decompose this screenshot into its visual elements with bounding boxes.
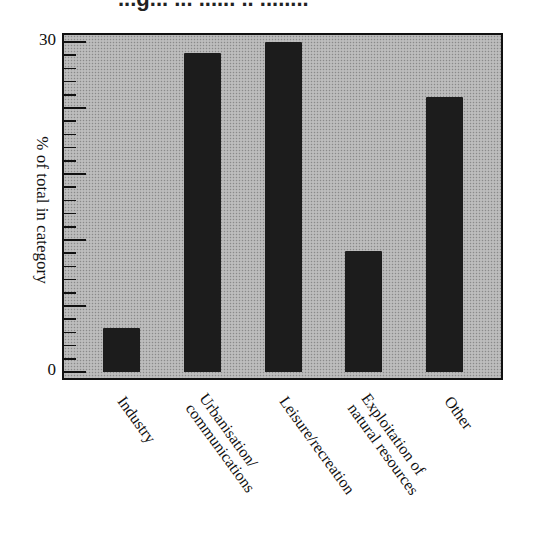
y-minor-tick [64,358,76,360]
y-major-tick [64,305,86,307]
y-tick-label-0: 0 [26,360,56,380]
y-minor-tick [64,318,76,320]
bar-other [426,97,463,372]
chart-title-cropped: ...g... ... ...... .. ........ [118,0,309,12]
x-label-line: Other [441,393,476,432]
y-tick-label-30: 30 [26,30,56,50]
y-major-tick [64,41,86,43]
y-minor-tick [64,147,76,149]
x-label-other: Other [441,393,476,432]
y-minor-tick [64,279,76,281]
y-minor-tick [64,68,76,70]
y-minor-tick [64,186,76,188]
y-minor-tick [64,266,76,268]
y-minor-tick [64,94,76,96]
y-minor-tick [64,213,76,215]
y-minor-tick [64,332,76,334]
y-minor-tick [64,120,76,122]
bar-leisure-recreation [265,42,302,372]
x-label-industry: Industry [114,393,159,446]
x-label-line: Industry [114,393,159,446]
y-minor-tick [64,345,76,347]
y-minor-tick [64,200,76,202]
y-minor-tick [64,252,76,254]
y-minor-tick [64,134,76,136]
y-axis-label: % of total in category [32,136,52,283]
bar-industry [103,328,140,372]
y-minor-tick [64,292,76,294]
y-major-tick [64,371,86,373]
y-major-tick [64,239,86,241]
x-label-exploitation: Exploitation of natural resources [344,390,435,498]
y-minor-tick [64,160,76,162]
y-minor-tick [64,226,76,228]
y-minor-tick [64,81,76,83]
x-label-urbanisation: Urbanisation/ communications [182,390,272,496]
plot-area [62,33,503,380]
y-minor-tick [64,54,76,56]
y-major-tick [64,107,86,109]
bar-urbanisation-communications [184,53,221,372]
y-major-tick [64,173,86,175]
bar-exploitation-of-natural-resources [345,251,382,372]
